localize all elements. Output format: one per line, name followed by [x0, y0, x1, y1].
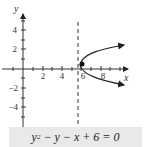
x-axis-label: x [123, 72, 129, 83]
vertex-point [80, 62, 85, 67]
parabola-chart: 4 2 −2 −4 2 4 6 8 y x [0, 0, 146, 132]
parabola-upper-branch [80, 45, 124, 65]
y-tick-label: 2 [13, 44, 18, 54]
y-tick-label: −2 [8, 83, 18, 93]
x-tick-label: 2 [41, 71, 46, 81]
x-tick-label: 4 [60, 71, 65, 81]
y-tick-label: −4 [8, 102, 18, 112]
caption-rest: − y − x + 6 = 0 [40, 130, 119, 145]
equation-caption: y2 − y − x + 6 = 0 [9, 127, 142, 147]
y-axis-label: y [13, 3, 19, 14]
y-tick-label: 4 [13, 25, 18, 35]
